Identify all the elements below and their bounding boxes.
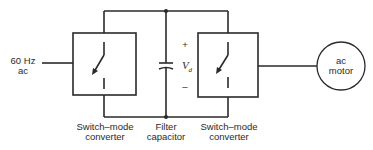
voltage-plus-sign: + bbox=[180, 40, 190, 50]
left-switch-blade bbox=[94, 55, 104, 72]
voltage-minus-sign: – bbox=[180, 82, 190, 92]
dc-voltage-label: Vd bbox=[177, 60, 197, 75]
junction-dot-top bbox=[164, 9, 168, 13]
junction-dot-bottom bbox=[164, 115, 168, 119]
ac-source-label: 60 Hz ac bbox=[4, 56, 42, 76]
filter-capacitor-label: Filter capacitor bbox=[140, 122, 192, 142]
left-converter-label: Switch–mode converter bbox=[66, 122, 144, 142]
right-converter-label: Switch–mode converter bbox=[190, 122, 268, 142]
motor-label: ac motor bbox=[321, 56, 361, 76]
